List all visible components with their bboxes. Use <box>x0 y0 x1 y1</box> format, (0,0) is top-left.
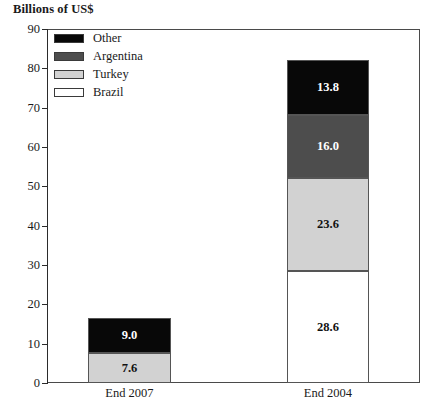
legend-swatch-icon <box>54 70 84 79</box>
y-axis-tick <box>42 108 47 109</box>
y-axis-label-wrap: 60 <box>0 141 40 153</box>
y-axis-label: 70 <box>2 102 40 114</box>
y-axis-label: 20 <box>2 298 40 310</box>
y-axis-tick <box>42 186 47 187</box>
y-axis-tick <box>42 344 47 345</box>
y-axis-label: 10 <box>2 338 40 350</box>
bar-segment-value: 13.8 <box>317 80 339 95</box>
x-axis-label-end-2004: End 2004 <box>278 386 378 401</box>
legend-swatch-icon <box>54 88 84 97</box>
bar-segment-argentina[interactable]: 16.0 <box>287 115 369 178</box>
y-axis-label-wrap: 20 <box>0 298 40 310</box>
bar-end-2007[interactable]: 7.69.0 <box>88 318 171 383</box>
stacked-bar-chart: Billions of US$ 9080706050403020100 7.69… <box>0 0 437 404</box>
y-axis-line <box>47 29 48 384</box>
y-axis-tick <box>42 68 47 69</box>
bar-segment-turkey[interactable]: 7.6 <box>88 353 171 383</box>
y-axis-label-wrap: 0 <box>0 377 40 389</box>
y-axis-tick <box>42 29 47 30</box>
bar-end-2004[interactable]: 28.623.616.013.8 <box>287 60 369 383</box>
bar-segment-value: 9.0 <box>122 328 138 343</box>
y-axis-label-wrap: 30 <box>0 259 40 271</box>
y-axis-label: 40 <box>2 220 40 232</box>
bar-segment-value: 28.6 <box>317 320 339 335</box>
y-axis-tick <box>42 304 47 305</box>
bar-segment-brazil[interactable]: 28.6 <box>287 271 369 383</box>
y-axis-tick <box>42 226 47 227</box>
legend-item-label: Brazil <box>93 86 124 99</box>
bar-segment-value: 7.6 <box>122 361 138 376</box>
y-axis-label: 60 <box>2 141 40 153</box>
y-axis-label: 0 <box>2 377 40 389</box>
x-axis-label-end-2007: End 2007 <box>80 386 180 401</box>
chart-title: Billions of US$ <box>13 2 94 17</box>
y-axis-tick <box>42 383 47 384</box>
legend-item-argentina[interactable]: Argentina <box>54 48 174 65</box>
y-axis-tick <box>42 265 47 266</box>
legend-item-brazil[interactable]: Brazil <box>54 84 174 101</box>
chart-legend: OtherArgentinaTurkeyBrazil <box>54 30 174 102</box>
legend-swatch-icon <box>54 34 84 43</box>
y-axis-label: 50 <box>2 180 40 192</box>
legend-item-turkey[interactable]: Turkey <box>54 66 174 83</box>
y-axis-label: 90 <box>2 23 40 35</box>
legend-item-label: Argentina <box>93 50 143 63</box>
legend-item-label: Turkey <box>93 68 129 81</box>
y-axis-label: 30 <box>2 259 40 271</box>
y-axis-label-wrap: 90 <box>0 23 40 35</box>
y-axis-label-wrap: 50 <box>0 180 40 192</box>
y-axis-label-wrap: 80 <box>0 62 40 74</box>
y-axis-tick <box>42 147 47 148</box>
y-axis-label: 80 <box>2 62 40 74</box>
legend-item-other[interactable]: Other <box>54 30 174 47</box>
y-axis-label-wrap: 10 <box>0 338 40 350</box>
bar-segment-other[interactable]: 13.8 <box>287 60 369 115</box>
legend-item-label: Other <box>93 32 121 45</box>
legend-swatch-icon <box>54 52 84 61</box>
y-axis-label-wrap: 40 <box>0 220 40 232</box>
bar-segment-turkey[interactable]: 23.6 <box>287 178 369 271</box>
bar-segment-other[interactable]: 9.0 <box>88 318 171 353</box>
y-axis-label-wrap: 70 <box>0 102 40 114</box>
bar-segment-value: 23.6 <box>317 217 339 232</box>
bar-segment-value: 16.0 <box>317 139 339 154</box>
